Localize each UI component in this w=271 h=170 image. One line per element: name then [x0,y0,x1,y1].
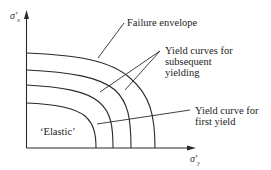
failure-envelope-label: Failure envelope [127,17,197,28]
y-axis-label: σ′x [10,10,20,23]
first-yield-label-line2: first yield [195,116,259,127]
first-yield-leader [97,110,190,124]
failure-envelope-leader [98,23,124,58]
subsequent-yield-label-line3: yielding [165,67,233,78]
subsequent-yield-label-line2: subsequent [165,56,233,67]
subsequent-leader-a [100,51,160,92]
subsequent-yield-curve-1 [27,85,114,148]
subsequent-yield-label-line1: Yield curves for [165,45,233,56]
x-axis-label: σ′y [190,153,200,166]
x-axis-arrow-icon [187,146,196,151]
subsequent-leader-b [125,51,160,90]
elastic-region-label: ‘Elastic’ [40,126,76,137]
y-axis-arrow-icon [24,10,29,19]
first-yield-label: Yield curve for first yield [195,105,259,127]
subsequent-yield-label: Yield curves for subsequent yielding [165,45,233,78]
first-yield-label-line1: Yield curve for [195,105,259,116]
